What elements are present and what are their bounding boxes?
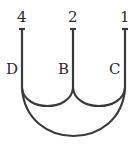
- terminal-label-4: 4: [17, 8, 27, 26]
- wire-label-c: C: [109, 60, 120, 78]
- loop-right-bc: [73, 88, 125, 106]
- loop-outer-dc: [22, 88, 125, 136]
- wiring-diagram: 4 2 1 D B C: [0, 0, 136, 146]
- terminal-label-2: 2: [68, 8, 78, 26]
- wire-label-d: D: [6, 60, 18, 78]
- loop-left-db: [22, 88, 73, 106]
- wire-label-b: B: [58, 60, 69, 78]
- terminal-label-1: 1: [120, 8, 130, 26]
